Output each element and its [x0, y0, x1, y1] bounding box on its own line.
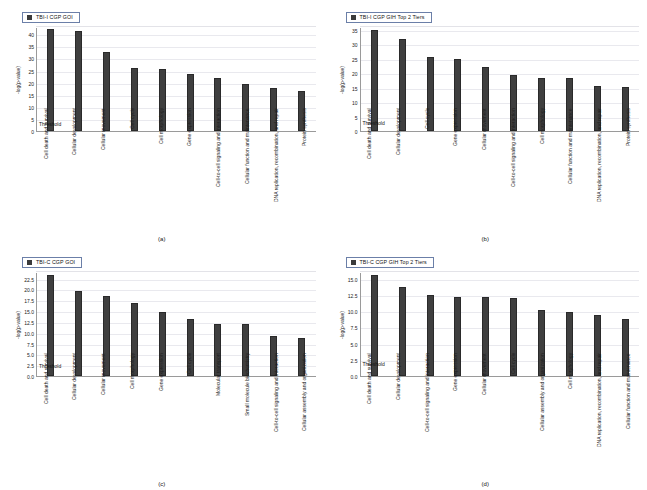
x-tick-label: Cellular development	[396, 108, 402, 202]
x-label-slot: Gene expression	[176, 108, 205, 204]
x-label-slot: Cellular development	[61, 108, 90, 204]
x-tick-label: Gene expression	[187, 108, 193, 202]
x-label-slot: Cell cycle	[499, 353, 528, 449]
x-label-slot: Cell morphology	[118, 353, 147, 449]
y-tick-label: 12.5	[348, 293, 358, 299]
x-tick-label: Gene expression	[453, 108, 459, 202]
threshold-label: Threshold	[363, 120, 385, 126]
x-label-slot: Protein synthesis	[291, 108, 320, 204]
panel-caption: (c)	[0, 481, 324, 487]
plot-top-rule	[360, 26, 640, 27]
y-tick-label: 25	[28, 69, 34, 75]
x-tick-label: Cell-to-cell signaling and interaction	[274, 353, 280, 447]
chart-panel-c: TBI-C CGP GOI-log(p-value)0.02.55.07.510…	[0, 245, 324, 490]
y-tick-label: 15.0	[24, 309, 34, 315]
legend-swatch-icon	[27, 260, 32, 265]
x-label-slot: Cellular movement	[90, 353, 119, 449]
legend-label: TBI-I CGP GIH Top 2 Tiers	[360, 15, 425, 20]
x-tick-label: Cell morphology	[568, 353, 574, 447]
x-axis-labels: Cell death and survivalCellular developm…	[356, 353, 644, 449]
x-label-slot: Cellular function and maintenance	[557, 108, 586, 204]
x-label-slot: Gene expression	[442, 353, 471, 449]
x-tick-label: Molecular transport	[216, 353, 222, 447]
y-tick-label: 15	[28, 93, 34, 99]
y-tick-label: 25	[352, 57, 358, 63]
y-axis-ticks: 0510152025303540	[12, 28, 34, 132]
x-label-slot: Cellular development	[61, 353, 90, 449]
x-label-slot: Small molecule biochemistry	[233, 353, 262, 449]
legend-label: TBI-I CGP GOI	[36, 15, 73, 20]
y-tick-label: 10.0	[24, 331, 34, 337]
x-tick-label: DNA replication, recombination, and repa…	[597, 353, 603, 447]
legend-swatch-icon	[351, 15, 356, 20]
legend-swatch-icon	[351, 260, 356, 265]
x-label-slot: Gene expression	[442, 108, 471, 204]
x-label-slot: Cellular movement	[471, 108, 500, 204]
x-label-slot: Molecular transport	[205, 353, 234, 449]
plot-top-rule	[36, 26, 316, 27]
x-label-slot: Cell-to-cell signaling and interaction	[205, 108, 234, 204]
panel-caption: (d)	[324, 481, 647, 487]
x-tick-label: Cell cycle	[187, 353, 193, 447]
chart-legend: TBI-C CGP GOI	[22, 257, 82, 268]
x-label-slot: DNA replication, recombination, and repa…	[586, 353, 615, 449]
x-label-slot: Protein synthesis	[614, 108, 643, 204]
x-label-slot: Cell morphology	[528, 108, 557, 204]
x-axis-labels: Cell death and survivalCellular developm…	[356, 108, 644, 204]
x-label-slot: Cell morphology	[557, 353, 586, 449]
x-tick-label: DNA replication, recombination, and repa…	[597, 108, 603, 202]
x-tick-label: Cellular development	[72, 108, 78, 202]
x-label-slot: Cellular development	[384, 353, 413, 449]
x-tick-label: Cellular movement	[101, 353, 107, 447]
figure-panel-grid: TBI-I CGP GOI-log(p-value)05101520253035…	[0, 0, 647, 490]
x-tick-label: Cellular movement	[482, 108, 488, 202]
plot-top-rule	[360, 271, 640, 272]
x-tick-label: Cellular development	[396, 353, 402, 447]
x-label-slot: Cellular function and maintenance	[233, 108, 262, 204]
threshold-label: Threshold	[39, 121, 61, 127]
y-tick-label: 15	[352, 86, 358, 92]
legend-label: TBI-C CGP GOI	[36, 260, 75, 265]
y-axis-ticks: 0.02.55.07.510.012.515.017.520.022.5	[12, 273, 34, 377]
x-tick-label: Small molecule biochemistry	[245, 353, 251, 447]
x-tick-label: Cell morphology	[159, 108, 165, 202]
x-label-slot: Gene expression	[147, 353, 176, 449]
x-tick-label: Cell morphology	[540, 108, 546, 202]
x-tick-label: Cell-to-cell signaling and interaction	[216, 108, 222, 202]
x-tick-label: Gene expression	[159, 353, 165, 447]
x-label-slot: Cellular assembly and organization	[528, 353, 557, 449]
y-tick-label: 15.0	[348, 277, 358, 283]
panel-caption: (b)	[324, 236, 647, 242]
chart-panel-b: TBI-I CGP GIH Top 2 Tiers-log(p-value)05…	[324, 0, 647, 245]
y-tick-label: 22.5	[24, 277, 34, 283]
y-tick-label: 20	[352, 71, 358, 77]
y-tick-label: 40	[28, 32, 34, 38]
chart-panel-d: TBI-C CGP GIH Top 2 Tiers-log(p-value)0.…	[324, 245, 647, 490]
x-label-slot: Cellular assembly and organization	[291, 353, 320, 449]
threshold-label: Threshold	[39, 363, 61, 369]
x-tick-label: Cell-to-cell signaling and interaction	[511, 108, 517, 202]
x-label-slot: Cell-to-cell signaling and interaction	[499, 108, 528, 204]
threshold-label: Threshold	[363, 361, 385, 367]
y-tick-label: 30	[28, 56, 34, 62]
x-axis-labels: Cell death and survivalCellular developm…	[32, 353, 320, 449]
x-tick-label: Protein synthesis	[626, 108, 632, 202]
x-tick-label: Cellular assembly and organization	[540, 353, 546, 447]
y-tick-label: 10	[352, 100, 358, 106]
x-tick-label: Cellular function and maintenance	[568, 108, 574, 202]
x-tick-label: Cellular function and maintenance	[626, 353, 632, 447]
x-label-slot: Cellular development	[384, 108, 413, 204]
x-label-slot: Cell death and survival	[356, 353, 385, 449]
x-label-slot: Cellular movement	[471, 353, 500, 449]
x-tick-label: Cellular development	[72, 353, 78, 447]
x-tick-label: Cellular movement	[482, 353, 488, 447]
x-tick-label: Cell morphology	[130, 353, 136, 447]
chart-legend: TBI-I CGP GOI	[22, 12, 80, 23]
x-tick-label: Cell death and survival	[367, 353, 373, 447]
x-tick-label: Protein synthesis	[302, 108, 308, 202]
y-tick-label: 20.0	[24, 287, 34, 293]
y-tick-label: 12.5	[24, 320, 34, 326]
x-label-slot: DNA replication, recombination, and repa…	[262, 108, 291, 204]
plot-top-rule	[36, 271, 316, 272]
x-tick-label: Cell cycle	[425, 108, 431, 202]
